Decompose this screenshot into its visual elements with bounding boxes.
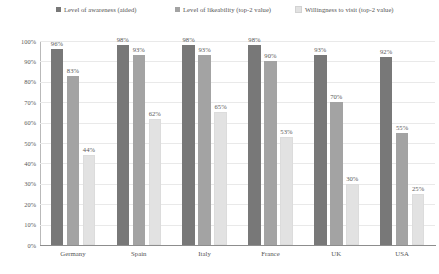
y-axis-tick-label: 50% <box>0 140 36 147</box>
gridline <box>40 61 435 62</box>
bar-value-label: 98% <box>117 36 129 44</box>
bar-value-label: 25% <box>412 185 424 193</box>
bar-value-label: 93% <box>199 46 211 54</box>
gridline <box>40 41 435 42</box>
legend-item-awareness: Level of awareness (aided) <box>56 3 137 16</box>
y-axis-tick-label: 40% <box>0 160 36 167</box>
legend-label-willingness: Willingness to visit (top-2 value) <box>305 5 394 14</box>
x-axis-category-label: USA <box>369 249 435 258</box>
bar-value-label: 30% <box>346 175 358 183</box>
bar-group: 98%93%62% <box>117 41 162 245</box>
bar-group: 98%90%53% <box>248 41 293 245</box>
legend-item-likeability: Level of likeability (top-2 value) <box>175 3 271 16</box>
x-axis-category-label: Germany <box>40 249 106 258</box>
y-axis-tick-label: 80% <box>0 78 36 85</box>
gridline <box>40 225 435 226</box>
bar-group: 98%93%65% <box>182 41 227 245</box>
y-axis-tick-label: 0% <box>0 242 36 249</box>
bar-value-label: 65% <box>215 103 227 111</box>
bar: 93% <box>314 55 327 245</box>
gridline <box>40 123 435 124</box>
y-axis-tick-label: 30% <box>0 180 36 187</box>
bar: 93% <box>198 55 211 245</box>
legend-label-likeability: Level of likeability (top-2 value) <box>183 5 271 14</box>
bar: 93% <box>133 55 146 245</box>
bar-value-label: 53% <box>280 128 292 136</box>
bar: 90% <box>264 61 277 245</box>
x-axis-line <box>40 245 436 246</box>
bar-group: 96%83%44% <box>51 41 96 245</box>
y-axis-tick-label: 90% <box>0 58 36 65</box>
gridline <box>40 163 435 164</box>
bar: 98% <box>248 45 261 245</box>
bar: 53% <box>280 137 293 245</box>
bar-value-label: 93% <box>133 46 145 54</box>
bar: 70% <box>330 102 343 245</box>
y-axis-tick-label: 10% <box>0 221 36 228</box>
bar-value-label: 83% <box>67 67 79 75</box>
bar-value-label: 98% <box>248 36 260 44</box>
bar: 83% <box>67 76 80 245</box>
y-axis-tick-label: 100% <box>0 38 36 45</box>
bar-value-label: 96% <box>51 40 63 48</box>
bar-value-label: 62% <box>149 110 161 118</box>
bar: 98% <box>182 45 195 245</box>
bar: 30% <box>346 184 359 245</box>
legend-swatch-likeability <box>175 7 180 12</box>
bar: 98% <box>117 45 130 245</box>
bar: 96% <box>51 49 64 245</box>
bar: 55% <box>396 133 409 245</box>
bar-value-label: 93% <box>314 46 326 54</box>
bar: 62% <box>149 119 162 245</box>
bar-value-label: 98% <box>183 36 195 44</box>
gridline <box>40 102 435 103</box>
gridline <box>40 204 435 205</box>
bar-chart: Level of awareness (aided) Level of like… <box>0 0 439 274</box>
bar-value-label: 44% <box>83 146 95 154</box>
bar: 65% <box>214 112 227 245</box>
bar-value-label: 92% <box>380 48 392 56</box>
legend-label-awareness: Level of awareness (aided) <box>64 5 137 14</box>
bar-value-label: 70% <box>330 93 342 101</box>
plot-area: 96%83%44%98%93%62%98%93%65%98%90%53%93%7… <box>40 41 435 245</box>
x-axis-category-label: France <box>238 249 304 258</box>
legend-swatch-willingness <box>295 6 302 13</box>
y-axis-tick-label: 70% <box>0 99 36 106</box>
bar-value-label: 90% <box>264 52 276 60</box>
gridline <box>40 143 435 144</box>
bar-value-label: 55% <box>396 124 408 132</box>
gridline <box>40 82 435 83</box>
y-axis-tick-label: 20% <box>0 201 36 208</box>
x-axis-category-label: UK <box>303 249 369 258</box>
y-axis-tick-label: 60% <box>0 119 36 126</box>
bar-group: 93%70%30% <box>314 41 359 245</box>
bar-group: 92%55%25% <box>380 41 425 245</box>
gridline <box>40 184 435 185</box>
legend-item-willingness: Willingness to visit (top-2 value) <box>295 3 394 16</box>
x-axis-category-label: Italy <box>172 249 238 258</box>
legend-swatch-awareness <box>56 7 61 12</box>
bar: 92% <box>380 57 393 245</box>
chart-legend: Level of awareness (aided) Level of like… <box>0 3 439 17</box>
x-axis-category-label: Spain <box>106 249 172 258</box>
bar: 44% <box>83 155 96 245</box>
bar: 25% <box>412 194 425 245</box>
